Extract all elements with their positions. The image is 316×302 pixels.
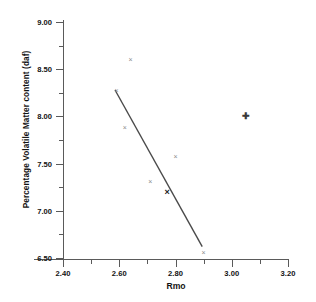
scatter-chart: Percentage Volatile Matter content (daf)… <box>0 0 316 302</box>
regression-line <box>0 0 316 302</box>
